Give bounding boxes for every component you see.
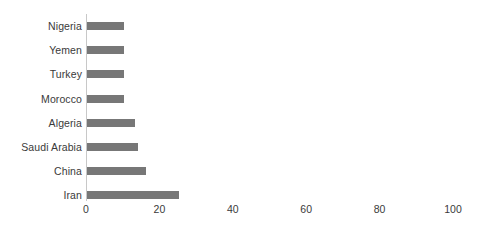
bar-row: Morocco — [0, 87, 491, 111]
x-tick-label: 60 — [300, 203, 312, 215]
category-label: Turkey — [50, 68, 82, 80]
bar-nigeria — [87, 22, 124, 30]
category-label: China — [54, 165, 82, 177]
category-label: Algeria — [49, 117, 82, 129]
bar-turkey — [87, 70, 124, 78]
category-label: Morocco — [41, 93, 82, 105]
plot-area: Nigeria Yemen Turkey Morocco Algeria Sau… — [0, 0, 491, 242]
bar-yemen — [87, 46, 124, 54]
x-axis: 0 20 40 60 80 100 — [0, 203, 491, 223]
bar-row: Algeria — [0, 111, 491, 135]
bar-row: Nigeria — [0, 14, 491, 38]
bar-row: Turkey — [0, 62, 491, 86]
x-tick-label: 40 — [227, 203, 239, 215]
category-label: Nigeria — [48, 20, 82, 32]
x-tick-label: 20 — [154, 203, 166, 215]
bar-row: China — [0, 159, 491, 183]
bar-saudi-arabia — [87, 143, 138, 151]
bar-chart: Nigeria Yemen Turkey Morocco Algeria Sau… — [0, 0, 491, 242]
category-label: Saudi Arabia — [21, 141, 82, 153]
bar-iran — [87, 191, 179, 199]
category-label: Yemen — [49, 44, 82, 56]
bar-row: Yemen — [0, 38, 491, 62]
bar-china — [87, 167, 146, 175]
category-label: Iran — [64, 189, 83, 201]
x-tick-label: 0 — [83, 203, 89, 215]
bar-row: Saudi Arabia — [0, 135, 491, 159]
x-tick-label: 80 — [374, 203, 386, 215]
x-tick-label: 100 — [444, 203, 462, 215]
bar-morocco — [87, 95, 124, 103]
bar-algeria — [87, 119, 135, 127]
